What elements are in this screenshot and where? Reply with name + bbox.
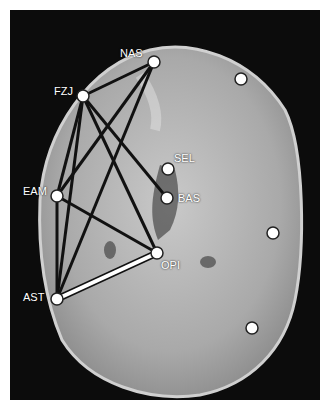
- landmark-label-ast: AST: [23, 292, 44, 303]
- skull-figure: [0, 0, 330, 412]
- landmark-label-sel: SEL: [174, 153, 195, 164]
- landmark-marker-bas: [161, 192, 173, 204]
- landmark-marker-p2: [267, 227, 279, 239]
- landmark-marker-p1: [235, 73, 247, 85]
- landmark-label-fzj: FZJ: [54, 86, 73, 97]
- landmark-label-eam: EAM: [23, 186, 47, 197]
- landmark-label-bas: BAS: [178, 193, 200, 204]
- landmark-label-nas: NAS: [120, 48, 143, 59]
- landmark-marker-fzj: [77, 90, 89, 102]
- landmark-marker-ast: [51, 293, 63, 305]
- landmark-marker-opi: [151, 247, 163, 259]
- landmark-marker-sel: [162, 163, 174, 175]
- landmark-label-opi: OPI: [161, 260, 180, 271]
- landmark-marker-nas: [148, 56, 160, 68]
- landmark-marker-eam: [51, 190, 63, 202]
- landmark-marker-p3: [246, 322, 258, 334]
